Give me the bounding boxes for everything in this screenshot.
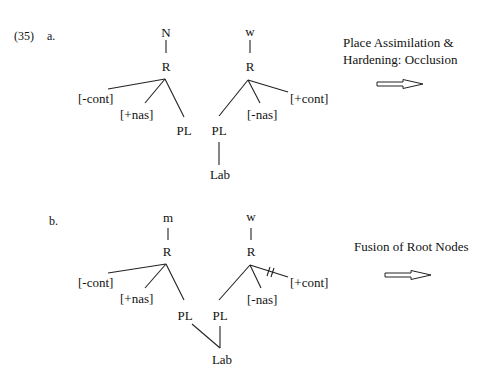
feature-cont: [-cont] [78,276,113,289]
root-node-2: R [246,60,255,73]
process-line-1: Place Assimilation & [343,34,457,51]
node-top-2: w [246,210,255,223]
line-r-pl-b [166,264,184,300]
line-r-nas [145,79,165,103]
place-node-1: PL [177,309,192,322]
process-caption: Place Assimilation & Hardening: Occlusio… [343,34,457,68]
feature-nas-2: [-nas] [247,293,277,306]
feature-cont: [-cont] [78,92,113,105]
line-r-cont2 [248,80,288,92]
line-r-cont [108,79,165,89]
node-top-2: w [245,25,254,38]
feature-cont-2: [+cont] [290,92,328,105]
articulator-lab: Lab [210,168,230,181]
feature-nas-2: [-nas] [247,108,277,121]
double-outline-right-arrow-icon [376,78,426,90]
example-number: (35) [14,30,34,42]
node-top-1: m [163,211,173,224]
line-r-pl2-b [219,265,250,300]
feature-cont-2-delinked: [+cont] [290,276,328,289]
place-node-1: PL [176,124,191,137]
feature-nas: [+nas] [120,108,153,121]
line-r-pl [165,79,184,117]
place-node-2: PL [211,124,226,137]
line-r-pl2 [219,80,248,116]
panel-label: a. [47,30,55,42]
root-node-1: R [162,60,171,73]
line-r-cont-b [108,264,166,273]
feature-nas: [+nas] [120,292,153,305]
double-outline-right-arrow-icon [384,269,434,281]
articulator-lab: Lab [212,353,232,366]
process-line-1: Fusion of Root Nodes [354,238,468,255]
node-top-1: N [161,26,170,39]
place-node-2: PL [212,309,227,322]
line-pl1-lab-b [192,324,220,348]
line-r-nas-b [145,264,166,288]
process-caption: Fusion of Root Nodes [354,238,468,255]
process-line-2: Hardening: Occlusion [343,51,457,68]
root-node-2: R [247,245,256,258]
root-node-1: R [163,245,172,258]
panel-label: b. [49,215,58,227]
